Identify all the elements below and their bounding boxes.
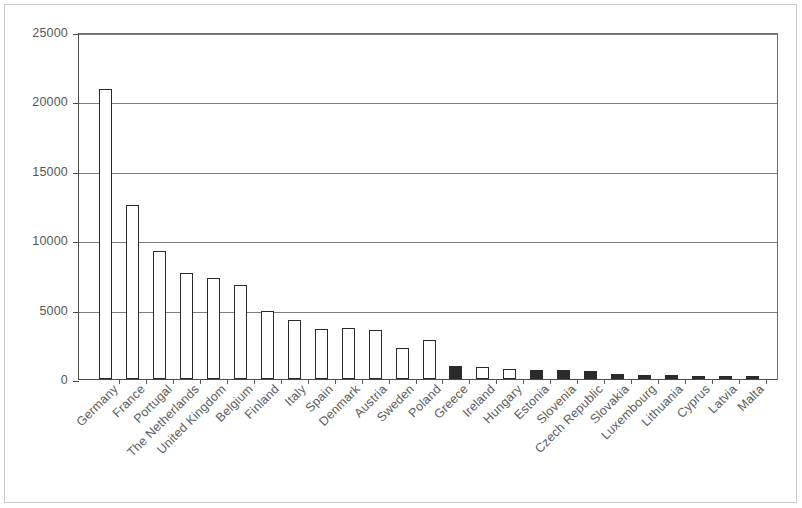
bar <box>99 89 112 379</box>
bar <box>665 375 678 379</box>
y-tick-label: 0 <box>4 373 68 387</box>
bar <box>207 278 220 379</box>
x-category-label: Malta <box>735 382 767 414</box>
bar <box>369 330 382 379</box>
y-tick-label: 25000 <box>4 26 68 40</box>
plot-area <box>78 33 778 380</box>
bar <box>126 205 139 379</box>
bar <box>638 375 651 379</box>
bar <box>342 328 355 379</box>
y-tick-label: 20000 <box>4 95 68 109</box>
bar <box>180 273 193 379</box>
y-tick-label: 10000 <box>4 234 68 248</box>
bar <box>288 320 301 379</box>
bar <box>557 370 570 379</box>
bar-chart-figure: 0500010000150002000025000 GermanyFranceP… <box>0 0 802 508</box>
bar <box>449 366 462 379</box>
bar <box>746 376 759 379</box>
y-tick-label: 15000 <box>4 165 68 179</box>
bar <box>530 370 543 379</box>
x-category-label: Latvia <box>706 382 740 416</box>
bar <box>315 329 328 379</box>
bar-series <box>79 34 777 379</box>
bar <box>503 369 516 379</box>
bar <box>153 251 166 379</box>
bar <box>261 311 274 379</box>
bar <box>611 374 624 379</box>
x-axis-category-labels: GermanyFrancePortugalThe NetherlandsUnit… <box>78 382 778 502</box>
bar <box>692 376 705 379</box>
bar <box>584 371 597 379</box>
y-tick-label: 5000 <box>4 304 68 318</box>
bar <box>234 285 247 379</box>
bar <box>719 376 732 379</box>
bar <box>423 340 436 379</box>
bar <box>396 348 409 379</box>
bar <box>476 367 489 379</box>
